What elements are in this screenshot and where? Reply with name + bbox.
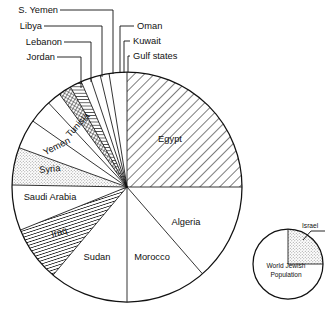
label-kuwait: Kuwait bbox=[133, 36, 161, 46]
leader-line-oman bbox=[120, 26, 134, 73]
callout-labels-left: S. Yemen Libya Lebanon Jordan bbox=[18, 5, 62, 62]
inset-title-line-2: Population bbox=[270, 271, 301, 279]
label-sudan: Sudan bbox=[84, 252, 111, 262]
label-saudi-arabia: Saudi Arabia bbox=[24, 192, 78, 202]
label-algeria: Algeria bbox=[172, 217, 202, 227]
label-oman: Oman bbox=[137, 21, 162, 31]
label-israel: Israel bbox=[302, 222, 319, 229]
inset-title-line-1: World Jewish bbox=[266, 262, 305, 269]
label-lebanon: Lebanon bbox=[26, 37, 62, 47]
leader-line-lebanon bbox=[64, 42, 91, 82]
label-s-yemen: S. Yemen bbox=[18, 5, 58, 15]
label-morocco: Morocco bbox=[134, 252, 170, 262]
leader-line-gulf-states bbox=[128, 56, 130, 72]
label-jordan: Jordan bbox=[27, 52, 55, 62]
label-egypt: Egypt bbox=[158, 134, 182, 144]
label-gulf-states: Gulf states bbox=[133, 51, 178, 61]
callout-labels-right: Oman Kuwait Gulf states bbox=[133, 21, 178, 61]
pie-slice-egypt[interactable] bbox=[127, 72, 242, 187]
leader-line-kuwait bbox=[124, 41, 130, 73]
chart-canvas: S. Yemen Libya Lebanon Jordan Oman Kuwai… bbox=[0, 0, 334, 309]
inset-pie-world-jewish-population: Israel World Jewish Population bbox=[253, 222, 325, 299]
label-libya: Libya bbox=[20, 21, 43, 31]
pie-chart-figure: S. Yemen Libya Lebanon Jordan Oman Kuwai… bbox=[0, 0, 334, 309]
